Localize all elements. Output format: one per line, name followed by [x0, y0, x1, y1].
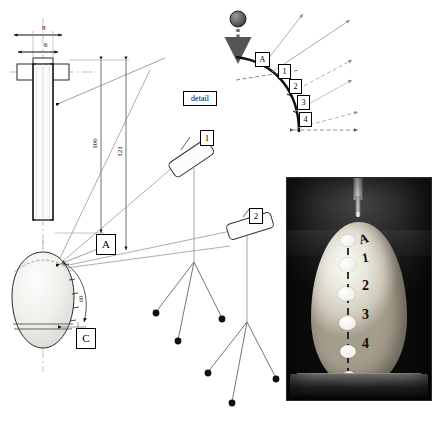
callout-camera-1: 1 [200, 130, 214, 146]
detail-view-label: detail [183, 91, 217, 106]
guide-tube-assembly [10, 18, 165, 250]
photo-marker-dot [339, 258, 356, 272]
photo-mark-2: 2 [362, 278, 369, 294]
detail-impact-diagram [230, 11, 358, 132]
photo-marker-dot [339, 316, 356, 330]
detail-point-4: 4 [299, 112, 312, 127]
dimension-height-121: 121 [117, 146, 124, 157]
photo-mark-4: 4 [362, 336, 369, 352]
detail-point-2: 2 [289, 79, 302, 94]
dimension-height-100: 100 [92, 138, 99, 149]
dimension-inner-width: 6 [44, 42, 48, 49]
photo-marker-dot [340, 345, 356, 358]
detail-point-a: A [255, 52, 270, 67]
dimension-outer-width: 8 [42, 25, 46, 32]
photo-mark-3: 3 [362, 307, 369, 323]
detail-point-3: 3 [297, 95, 310, 110]
photo-marker-dot [340, 235, 355, 246]
callout-camera-2: 2 [249, 208, 263, 224]
camera-1-assembly [153, 137, 226, 344]
detail-point-1: 1 [278, 64, 291, 79]
callout-section-c: C [76, 328, 96, 349]
callout-impact-point-a: A [96, 234, 116, 255]
camera-2-assembly [205, 208, 280, 406]
photo-stage-plate [290, 374, 428, 396]
specimen-photograph: A 1 2 3 4 [286, 177, 432, 401]
figure-canvas: 8 6 100 121 60 detail A C 1 2 A 1 2 3 4 … [0, 0, 433, 428]
dimension-arc-angle: 60 [78, 296, 84, 302]
photo-marker-dot [338, 287, 355, 301]
